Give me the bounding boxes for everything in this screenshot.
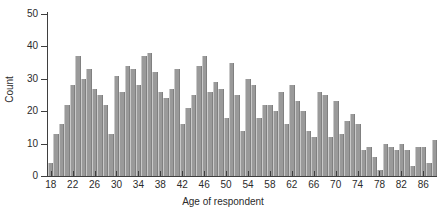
y-axis-tick-label: 0 [10, 171, 38, 181]
x-axis-tick-label: 78 [367, 179, 391, 190]
x-axis-tick-label: 66 [302, 179, 326, 190]
x-axis-tick [51, 171, 52, 177]
x-axis-tick-label: 18 [39, 179, 63, 190]
x-axis-tick [160, 171, 161, 177]
x-axis-tick [336, 171, 337, 177]
x-axis-tick [358, 171, 359, 177]
x-axis-tick [292, 171, 293, 177]
x-axis-tick-label: 26 [83, 179, 107, 190]
x-axis-tick-label: 82 [389, 179, 413, 190]
x-axis-tick-label: 62 [280, 179, 304, 190]
y-axis-tick-label: 50 [10, 9, 38, 19]
y-axis-tick [41, 79, 47, 80]
y-axis-tick [41, 144, 47, 145]
y-axis-tick [41, 46, 47, 47]
x-axis-tick-label: 34 [126, 179, 150, 190]
x-axis-tick [95, 171, 96, 177]
x-axis-tick [182, 171, 183, 177]
y-axis-line [47, 12, 48, 177]
x-axis-tick [270, 171, 271, 177]
x-axis-tick [248, 171, 249, 177]
x-axis-tick-label: 22 [61, 179, 85, 190]
y-axis-tick-label: 40 [10, 41, 38, 51]
y-axis-tick [41, 14, 47, 15]
x-axis-tick-label: 74 [346, 179, 370, 190]
x-axis-tick-label: 42 [170, 179, 194, 190]
y-axis-title: Count [4, 60, 15, 120]
x-axis-tick [314, 171, 315, 177]
bar-series [48, 14, 437, 176]
x-axis-tick [423, 171, 424, 177]
histogram-figure: 01020304050 1822263034384246505458626670… [0, 0, 446, 218]
x-axis-tick-label: 70 [324, 179, 348, 190]
x-axis-tick [379, 171, 380, 177]
x-axis-tick-label: 30 [104, 179, 128, 190]
histogram-bar [432, 140, 437, 176]
x-axis-tick [138, 171, 139, 177]
x-axis-tick [226, 171, 227, 177]
x-axis-tick [401, 171, 402, 177]
x-axis-tick-label: 58 [258, 179, 282, 190]
x-axis-tick-label: 54 [236, 179, 260, 190]
x-axis-tick-label: 50 [214, 179, 238, 190]
y-axis-tick [41, 176, 47, 177]
y-axis-tick [41, 111, 47, 112]
plot-area [48, 14, 437, 176]
x-axis-title: Age of respondent [0, 196, 446, 207]
x-axis-tick [204, 171, 205, 177]
x-axis-tick-label: 46 [192, 179, 216, 190]
y-axis-tick-label: 10 [10, 139, 38, 149]
x-axis-tick-label: 38 [148, 179, 172, 190]
x-axis-tick [73, 171, 74, 177]
x-axis-tick [116, 171, 117, 177]
x-axis-tick-label: 86 [411, 179, 435, 190]
